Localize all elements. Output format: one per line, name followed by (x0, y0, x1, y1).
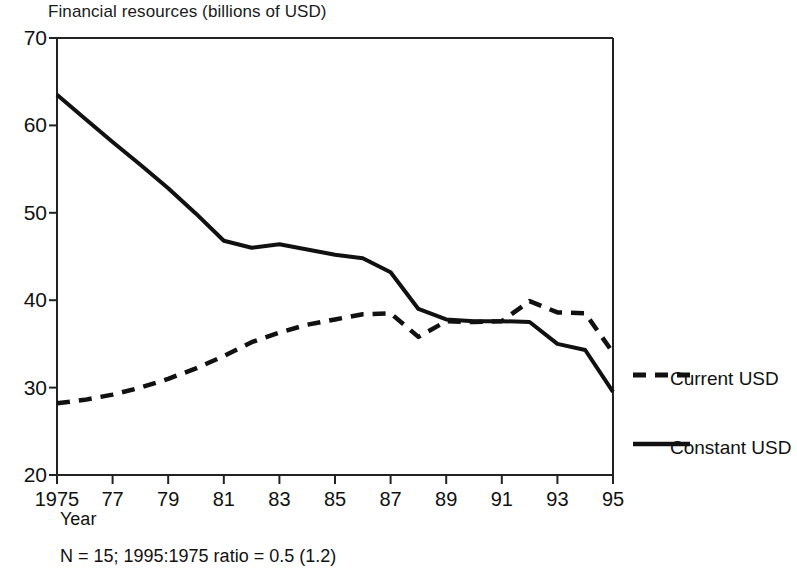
data-series (57, 95, 613, 404)
x-tick-label: 95 (578, 489, 648, 509)
axis-ticks (49, 38, 613, 484)
y-tick-label: 40 (5, 289, 47, 310)
chart-footnote: N = 15; 1995:1975 ratio = 0.5 (1.2) (60, 546, 336, 567)
series-line-current-usd (57, 301, 613, 403)
y-tick-label: 70 (5, 27, 47, 48)
series-line-constant-usd (57, 95, 613, 392)
x-axis-title: Year (60, 509, 96, 530)
y-tick-label: 60 (5, 114, 47, 135)
y-tick-label: 30 (5, 377, 47, 398)
y-tick-label: 20 (5, 464, 47, 485)
legend-label-current-usd: Current USD (670, 368, 779, 390)
financial-resources-chart: Financial resources (billions of USD) 70… (0, 0, 797, 577)
y-tick-label: 50 (5, 202, 47, 223)
legend-label-constant-usd: Constant USD (670, 437, 791, 459)
